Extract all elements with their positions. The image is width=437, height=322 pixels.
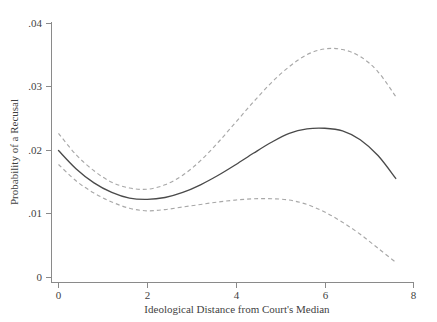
y-tick-label-0.03: .03 [28,80,42,92]
x-tick-label-6: 6 [323,289,329,301]
chart-figure: .04 .03 .02 .01 0 0 2 4 6 8 Ideological … [0,0,437,322]
y-tick-label-0.01: .01 [28,207,42,219]
y-tick-label-0.04: .04 [28,17,42,29]
x-axis-title: Ideological Distance from Court's Median [144,303,330,315]
y-axis-title: Probability of a Recusal [8,99,20,205]
x-tick-label-8: 8 [411,289,417,301]
x-tick-label-2: 2 [145,289,151,301]
y-tick-label-0: 0 [37,271,43,283]
y-tick-label-0.02: .02 [28,144,42,156]
chart-background [0,0,437,322]
x-tick-label-4: 4 [234,289,240,301]
x-tick-label-0: 0 [56,289,62,301]
recusal-probability-line-chart: .04 .03 .02 .01 0 0 2 4 6 8 Ideological … [0,0,437,322]
